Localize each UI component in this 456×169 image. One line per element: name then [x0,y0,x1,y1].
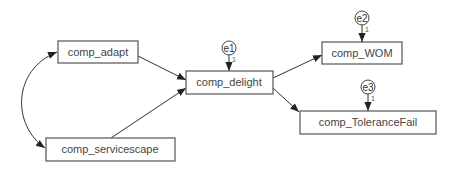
covariance-adapt-servicescape [22,52,57,148]
node-label: comp_adapt [68,46,129,58]
node-comp-delight[interactable]: comp_delight [186,71,273,94]
node-label: comp_servicescape [61,143,158,155]
node-label: comp_delight [196,76,261,88]
error-weight: 1 [371,95,375,102]
node-label: comp_ToleranceFail [319,116,417,128]
error-label: e3 [362,82,374,93]
path-diagram: comp_adapt comp_servicescape comp_deligh… [0,0,456,169]
edge-delight-to-tolerance [273,88,299,112]
edge-adapt-to-delight [138,56,186,80]
error-label: e2 [356,13,368,24]
error-weight: 1 [232,56,236,63]
node-comp-servicescape[interactable]: comp_servicescape [46,138,175,161]
error-label: e1 [223,43,235,54]
error-weight: 1 [365,26,369,33]
edge-delight-to-wom [273,55,322,78]
node-comp-tolerancefail[interactable]: comp_ToleranceFail [300,111,436,134]
node-comp-adapt[interactable]: comp_adapt [58,41,138,63]
node-label: comp_WOM [331,47,392,59]
edge-servicescape-to-delight [111,88,186,138]
node-comp-wom[interactable]: comp_WOM [322,42,402,64]
